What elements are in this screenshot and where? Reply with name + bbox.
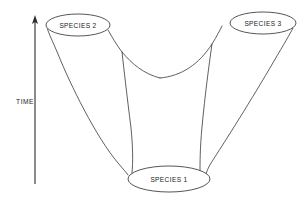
funnel-left-wall bbox=[122, 52, 133, 173]
node-species-1[interactable]: SPECIES 1 bbox=[128, 166, 210, 192]
species-2-label: SPECIES 2 bbox=[59, 22, 96, 29]
node-species-3[interactable]: SPECIES 3 bbox=[230, 12, 296, 34]
left-inner-edge bbox=[108, 30, 160, 78]
right-outer-edge bbox=[206, 28, 293, 174]
diagram-canvas: SPECIES 1 SPECIES 2 SPECIES 3 TIME bbox=[0, 0, 300, 203]
speciation-diagram: SPECIES 1 SPECIES 2 SPECIES 3 TIME bbox=[0, 0, 300, 203]
species-3-label: SPECIES 3 bbox=[244, 20, 281, 27]
time-axis-label: TIME bbox=[16, 98, 34, 105]
valley-right-edge bbox=[160, 26, 222, 78]
left-outer-edge bbox=[48, 29, 129, 175]
node-species-2[interactable]: SPECIES 2 bbox=[46, 14, 110, 36]
surface-group bbox=[48, 26, 294, 175]
species-1-label: SPECIES 1 bbox=[150, 176, 187, 183]
time-axis: TIME bbox=[16, 15, 38, 184]
funnel-right-wall bbox=[200, 44, 212, 173]
